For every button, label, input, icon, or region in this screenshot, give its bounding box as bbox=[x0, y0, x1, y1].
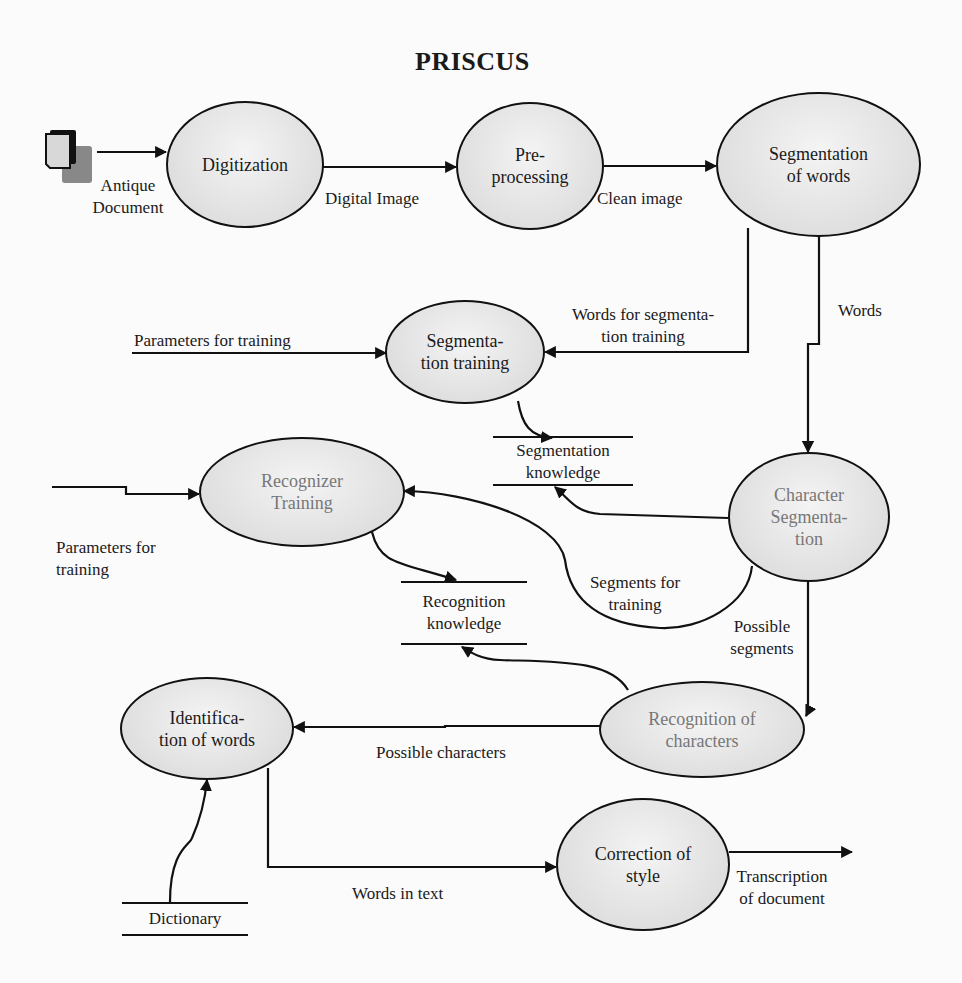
edge-possible-characters bbox=[294, 726, 600, 727]
label-possible-characters: Possible characters bbox=[376, 742, 506, 764]
node-character-segmentation[interactable]: Character Segmenta- tion bbox=[728, 452, 890, 582]
label-segments-for-training: Segments for training bbox=[580, 572, 690, 616]
edge-charseg-to-segknowledge bbox=[555, 487, 728, 518]
node-segmentation-training[interactable]: Segmenta- tion training bbox=[385, 300, 545, 404]
edge-words bbox=[808, 236, 819, 452]
label-possible-segments: Possible segments bbox=[722, 616, 802, 660]
label-parameters-for-training-left: Parameters for training bbox=[56, 537, 156, 581]
node-digitization[interactable]: Digitization bbox=[166, 101, 324, 228]
label-words: Words bbox=[838, 300, 882, 322]
edge-recogchars-to-recogknowledge bbox=[462, 647, 628, 690]
label-clean-image: Clean image bbox=[597, 188, 682, 210]
edge-dictionary bbox=[170, 780, 207, 902]
edge-segtrain-to-store bbox=[518, 401, 552, 438]
edge-params-recog-training bbox=[52, 487, 199, 494]
store-segmentation-knowledge[interactable]: Segmentation knowledge bbox=[493, 436, 633, 486]
node-correction-of-style[interactable]: Correction of style bbox=[556, 798, 730, 931]
diagram-title: PRISCUS bbox=[415, 47, 530, 77]
edge-recogtrain-to-store bbox=[372, 532, 456, 580]
node-segmentation-of-words[interactable]: Segmentation of words bbox=[716, 92, 921, 237]
edge-words-in-text bbox=[268, 768, 556, 867]
node-recognizer-training[interactable]: Recognizer Training bbox=[199, 437, 405, 547]
label-parameters-for-training-top: Parameters for training bbox=[134, 330, 291, 352]
node-identification-of-words[interactable]: Identifica- tion of words bbox=[120, 677, 294, 780]
label-antique-document: Antique Document bbox=[88, 175, 168, 219]
node-preprocessing[interactable]: Pre- processing bbox=[456, 102, 604, 230]
label-words-for-segmentation-training: Words for segmenta- tion training bbox=[548, 304, 738, 348]
label-digital-image: Digital Image bbox=[325, 188, 419, 210]
store-dictionary[interactable]: Dictionary bbox=[122, 902, 248, 936]
label-transcription-of-document: Transcription of document bbox=[724, 866, 840, 910]
label-words-in-text: Words in text bbox=[352, 883, 443, 905]
node-recognition-of-characters[interactable]: Recognition of characters bbox=[599, 681, 805, 778]
store-recognition-knowledge[interactable]: Recognition knowledge bbox=[401, 581, 527, 645]
edge-possible-segments bbox=[806, 580, 808, 716]
